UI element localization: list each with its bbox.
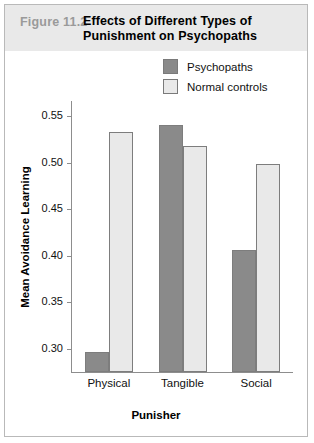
figure-title: Effects of Different Types of Punishment… xyxy=(83,14,301,44)
x-axis-title: Punisher xyxy=(5,409,307,421)
bar-physical-psychopaths xyxy=(85,352,109,372)
y-axis-tick-label: 0.30 xyxy=(42,342,63,354)
legend-swatch-normal-controls xyxy=(163,79,178,94)
y-axis-title-text: Mean Avoidance Learning xyxy=(19,166,31,308)
x-axis-label-physical: Physical xyxy=(72,377,146,389)
y-axis-tick-label: 0.40 xyxy=(42,249,63,261)
y-axis-tick: 0.50 xyxy=(67,163,72,164)
y-axis-tick: 0.55 xyxy=(67,116,72,117)
legend-swatch-psychopaths xyxy=(163,59,178,74)
x-axis-label-tangible: Tangible xyxy=(146,377,220,389)
legend-item-psychopaths: Psychopaths xyxy=(163,57,303,76)
y-axis-tick: 0.35 xyxy=(67,302,72,303)
bar-social-normal-controls xyxy=(256,164,280,372)
y-axis-tick-label: 0.35 xyxy=(42,295,63,307)
y-axis-tick: 0.40 xyxy=(67,256,72,257)
figure-container: Figure 11.2 Effects of Different Types o… xyxy=(4,4,308,437)
y-axis-title: Mean Avoidance Learning xyxy=(17,101,33,373)
x-axis-label-social: Social xyxy=(219,377,293,389)
bar-social-psychopaths xyxy=(232,250,256,372)
legend-item-normal-controls: Normal controls xyxy=(163,77,303,96)
figure-number: Figure 11.2 xyxy=(20,15,88,29)
legend-label-psychopaths: Psychopaths xyxy=(187,61,253,73)
y-axis-tick-label: 0.45 xyxy=(42,202,63,214)
y-axis-tick-label: 0.55 xyxy=(42,109,63,121)
legend-label-normal-controls: Normal controls xyxy=(187,81,268,93)
y-axis-tick: 0.45 xyxy=(67,209,72,210)
bar-tangible-psychopaths xyxy=(159,125,183,372)
figure-header-band: Figure 11.2 Effects of Different Types o… xyxy=(5,5,307,51)
y-axis-tick-label: 0.50 xyxy=(42,156,63,168)
plot-area: 0.300.350.400.450.500.55PhysicalTangible… xyxy=(71,101,293,373)
bar-tangible-normal-controls xyxy=(183,146,207,372)
chart-legend: Psychopaths Normal controls xyxy=(163,57,303,97)
bar-physical-normal-controls xyxy=(109,132,133,372)
y-axis-tick: 0.30 xyxy=(67,349,72,350)
